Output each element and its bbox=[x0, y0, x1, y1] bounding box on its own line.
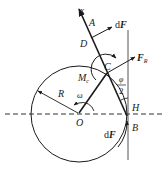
label-B: B bbox=[132, 122, 138, 133]
label-two: 2 bbox=[119, 86, 124, 96]
label-H: H bbox=[131, 102, 140, 113]
label-Mc: Mc bbox=[77, 72, 89, 84]
label-D: D bbox=[79, 38, 88, 49]
label-x-axis: x bbox=[79, 5, 84, 15]
label-O: O bbox=[76, 117, 83, 128]
label-dF-top: dF bbox=[115, 19, 127, 30]
label-FR: FR bbox=[136, 52, 148, 64]
label-A: A bbox=[88, 17, 96, 28]
force-arrow-FR bbox=[107, 57, 135, 73]
label-R: R bbox=[57, 88, 64, 99]
label-phi: φ bbox=[119, 75, 124, 84]
label-dF-bottom: dF bbox=[104, 129, 116, 140]
force-arrow-dF-top bbox=[91, 27, 112, 38]
mechanics-diagram: x A D dF C FR Mc φ 2 H R ω O B dF bbox=[0, 0, 167, 173]
label-C: C bbox=[104, 61, 111, 72]
label-omega: ω bbox=[77, 91, 83, 100]
